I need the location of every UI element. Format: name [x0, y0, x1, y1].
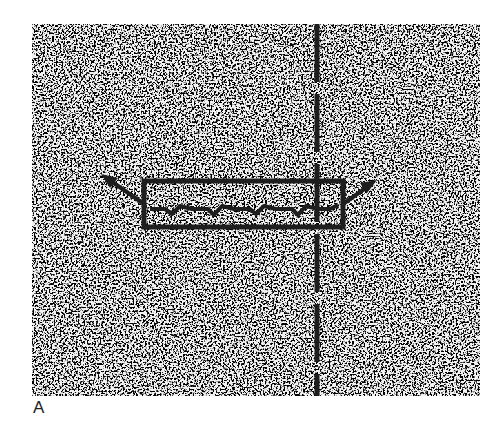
- tissue-texture: [32, 24, 480, 396]
- diagram-figure: [0, 0, 504, 423]
- panel-label: A: [33, 398, 44, 418]
